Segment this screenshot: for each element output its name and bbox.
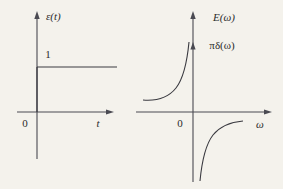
left-level-label: 1: [45, 48, 51, 60]
right-y-axis-arrowhead: [190, 11, 195, 19]
left-y-axis-arrowhead: [34, 11, 39, 19]
right-y-axis-label: E(ω): [212, 11, 235, 24]
left-x-axis-arrowhead: [106, 109, 114, 114]
right-x-axis-arrowhead: [264, 109, 272, 114]
impulse-label: πδ(ω): [209, 39, 235, 52]
math-figure: ε(t) 1 0 t E(ω) πδ(ω) 0 ω: [0, 0, 283, 189]
left-x-axis-label: t: [96, 117, 100, 129]
figure-container: ε(t) 1 0 t E(ω) πδ(ω) 0 ω: [0, 0, 283, 189]
right-origin-label: 0: [177, 117, 183, 129]
left-y-axis-label: ε(t): [46, 10, 61, 23]
left-panel-unit-step: ε(t) 1 0 t: [17, 10, 117, 159]
impulse-arrowhead: [190, 42, 195, 50]
right-panel-spectrum: E(ω) πδ(ω) 0 ω: [136, 11, 272, 182]
hyperbola-branch-upper-left: [143, 42, 189, 100]
hyperbola-branch-lower-right: [200, 121, 243, 181]
left-origin-label: 0: [22, 117, 28, 129]
right-x-axis-label: ω: [256, 118, 264, 130]
